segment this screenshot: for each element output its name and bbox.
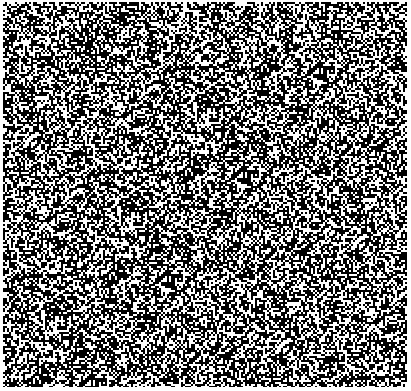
noise-image [0,0,411,391]
noise-texture [3,2,407,387]
